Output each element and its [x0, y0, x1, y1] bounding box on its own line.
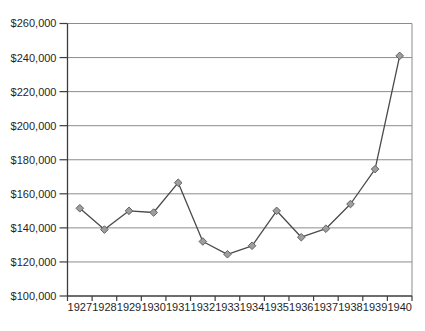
- y-axis-label: $260,000: [11, 17, 57, 29]
- chart-background: [0, 0, 425, 331]
- x-axis-label: 1927: [68, 301, 92, 313]
- y-axis-label: $140,000: [11, 222, 57, 234]
- x-axis-label: 1934: [240, 301, 264, 313]
- x-axis-label: 1938: [338, 301, 362, 313]
- x-axis-label: 1928: [92, 301, 116, 313]
- chart-figure: $100,000$120,000$140,000$160,000$180,000…: [0, 0, 425, 331]
- x-axis-label: 1935: [264, 301, 288, 313]
- y-axis-label: $200,000: [11, 120, 57, 132]
- x-axis-label: 1930: [141, 301, 165, 313]
- x-axis-label: 1939: [363, 301, 387, 313]
- x-axis-label: 1933: [215, 301, 239, 313]
- x-axis-label: 1929: [117, 301, 141, 313]
- y-axis-label: $220,000: [11, 86, 57, 98]
- y-axis-label: $180,000: [11, 154, 57, 166]
- x-axis-label: 1936: [289, 301, 313, 313]
- line-chart: $100,000$120,000$140,000$160,000$180,000…: [0, 0, 425, 331]
- x-axis-label: 1937: [314, 301, 338, 313]
- x-axis-label: 1931: [166, 301, 190, 313]
- y-axis-label: $240,000: [11, 52, 57, 64]
- x-axis-label: 1940: [387, 301, 411, 313]
- y-axis-label: $100,000: [11, 290, 57, 302]
- y-axis-label: $120,000: [11, 256, 57, 268]
- y-axis-label: $160,000: [11, 188, 57, 200]
- x-axis-label: 1932: [191, 301, 215, 313]
